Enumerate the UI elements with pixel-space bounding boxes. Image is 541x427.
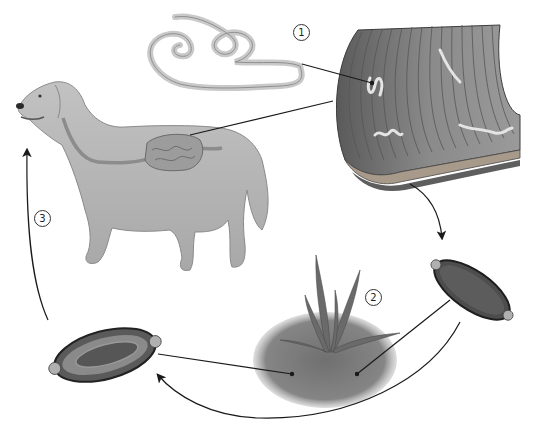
adult-worm-illustration <box>150 16 302 88</box>
intestine-wall-illustration <box>336 25 520 191</box>
arrow-egg-to-dog <box>27 150 48 320</box>
life-cycle-diagram <box>0 0 541 427</box>
unembryonated-egg <box>421 246 523 333</box>
dog-illustration <box>16 82 268 271</box>
gut-to-intestine-line <box>190 101 333 135</box>
soil-grass-illustration <box>253 255 400 408</box>
arrow-intestine-to-egg <box>410 184 442 238</box>
step-label-1: 1 <box>293 24 310 41</box>
embryonated-egg <box>43 317 167 393</box>
step-label-2: 2 <box>365 289 382 306</box>
step-label-3: 3 <box>34 210 51 227</box>
